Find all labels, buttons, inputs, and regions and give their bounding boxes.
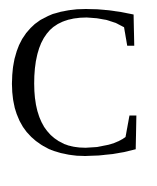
letter-canvas: C: [0, 0, 157, 186]
letter-c: C: [3, 0, 148, 186]
